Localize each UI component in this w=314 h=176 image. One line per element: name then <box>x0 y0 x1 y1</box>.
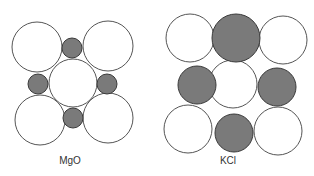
cation-sphere <box>258 68 296 106</box>
cation-sphere <box>215 114 253 152</box>
anion-sphere <box>254 107 302 155</box>
anion-sphere <box>83 21 133 71</box>
anion-sphere <box>259 16 307 64</box>
anion-sphere <box>164 105 212 153</box>
kcl-label: KCl <box>220 155 236 166</box>
mgo-lattice-panel <box>12 21 133 145</box>
ionic-lattice-diagram: MgO KCl <box>0 0 314 176</box>
cation-sphere <box>28 74 48 94</box>
cation-sphere <box>97 74 117 94</box>
anion-sphere <box>83 93 133 143</box>
cation-sphere <box>63 108 83 128</box>
cation-sphere <box>212 14 260 62</box>
mgo-label: MgO <box>59 155 81 166</box>
anion-sphere <box>166 14 214 62</box>
cation-sphere <box>62 38 82 58</box>
anion-sphere <box>12 22 62 72</box>
cation-sphere <box>178 66 216 104</box>
kcl-lattice-panel <box>164 14 307 155</box>
anion-sphere <box>15 95 65 145</box>
anion-sphere <box>49 59 97 107</box>
